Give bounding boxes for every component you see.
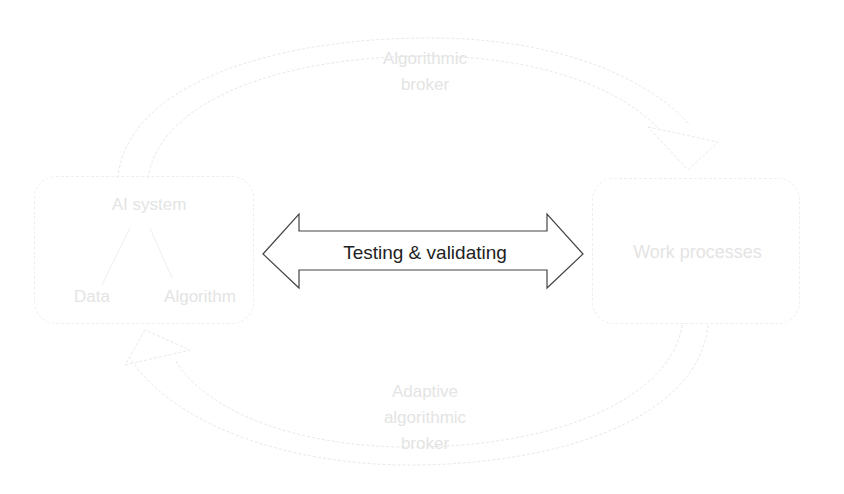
- algorithmic-broker-label-line1: Algorithmic: [360, 47, 490, 71]
- testing-validating-label: Testing & validating: [300, 240, 550, 266]
- adaptive-broker-label-line1: Adaptive: [360, 380, 490, 404]
- algorithm-label: Algorithm: [145, 285, 255, 309]
- data-label: Data: [62, 285, 122, 309]
- ai-system-title: AI system: [84, 193, 214, 217]
- adaptive-broker-label-line2: algorithmic: [360, 406, 490, 430]
- diagram-canvas: AI system Data Algorithm Work processes …: [0, 0, 844, 494]
- adaptive-broker-label-line3: broker: [360, 432, 490, 456]
- work-processes-title: Work processes: [600, 240, 795, 264]
- algorithmic-broker-label-line2: broker: [360, 73, 490, 97]
